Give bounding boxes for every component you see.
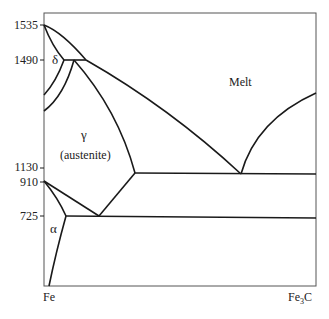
- region-label-gamma: γ: [81, 128, 87, 141]
- region-label-austenite: (austenite): [60, 149, 111, 161]
- x-label-fe3c: Fe3C: [288, 291, 312, 306]
- a3-line: [44, 181, 99, 216]
- eutectic-line: [135, 173, 316, 174]
- tick-label-1535: 1535: [0, 19, 38, 31]
- acm-line: [99, 173, 135, 216]
- region-label-alpha: α: [50, 222, 57, 235]
- eutectoid-line: [66, 216, 316, 218]
- alpha-gamma-boundary: [44, 181, 66, 216]
- tick-label-910: 910: [0, 176, 38, 188]
- region-label-delta: δ: [52, 53, 58, 66]
- phase-diagram-canvas: [0, 0, 329, 319]
- liquidus-right: [241, 93, 316, 174]
- tick-label-1130: 1130: [0, 161, 38, 173]
- tick-label-1490: 1490: [0, 54, 38, 66]
- delta-gamma-boundary-2: [44, 60, 74, 111]
- liquidus-upper: [44, 25, 86, 60]
- tick-label-725: 725: [0, 210, 38, 222]
- region-label-melt: Melt: [229, 76, 252, 88]
- x-label-fe: Fe: [43, 291, 55, 303]
